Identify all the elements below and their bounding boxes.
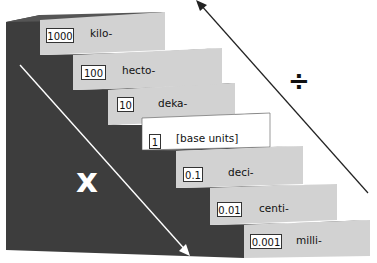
prefix-label-kilo: kilo- bbox=[90, 27, 112, 39]
prefix-label-hecto: hecto- bbox=[122, 64, 155, 76]
factor-box-centi: 0.01 bbox=[217, 202, 242, 217]
factor-box-kilo: 1000 bbox=[46, 28, 74, 43]
factor-box-base: 1 bbox=[149, 134, 161, 149]
staircase-diagram: 1000 kilo- 100 hecto- 10 deka- 1 [base u… bbox=[0, 0, 377, 263]
factor-box-hecto: 100 bbox=[81, 65, 106, 80]
multiply-symbol: x bbox=[76, 160, 98, 200]
factor-box-deci: 0.1 bbox=[183, 167, 203, 182]
divide-symbol: ÷ bbox=[288, 66, 310, 96]
prefix-label-deka: deka- bbox=[158, 97, 187, 109]
prefix-label-base: [base units] bbox=[176, 132, 238, 144]
factor-box-milli: 0.001 bbox=[250, 234, 282, 249]
prefix-label-milli: milli- bbox=[296, 234, 322, 246]
prefix-label-deci: deci- bbox=[228, 166, 254, 178]
factor-box-deka: 10 bbox=[117, 97, 134, 112]
prefix-label-centi: centi- bbox=[259, 202, 289, 214]
